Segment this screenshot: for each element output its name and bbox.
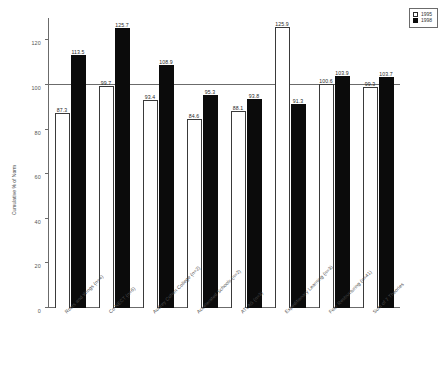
bar-1998[interactable]: 108.9 (159, 65, 174, 308)
bar-1998[interactable]: 103.9 (335, 76, 350, 308)
plot-area: 020406080100120 87.3113.599.7125.793.410… (48, 18, 400, 308)
bar-value-label: 103.9 (335, 70, 348, 76)
bar-1998[interactable]: 95.3 (203, 95, 218, 308)
bar-value-label: 125.9 (275, 21, 288, 27)
legend-label: 1998 (421, 18, 432, 23)
bar-value-label: 88.1 (233, 105, 244, 111)
bar-1995[interactable]: 87.3 (55, 113, 70, 308)
bar-value-label: 95.3 (205, 89, 216, 95)
bar-1998[interactable]: 103.7 (379, 77, 394, 308)
bar-value-label: 91.3 (293, 98, 304, 104)
y-axis-title: Cumulative % of Norm (12, 165, 17, 215)
bar-group: 87.3113.5 (55, 18, 86, 308)
white-square-swatch-icon (413, 12, 418, 17)
bar-value-label: 93.4 (145, 94, 156, 100)
bar-1995[interactable]: 125.9 (275, 27, 290, 308)
bar-group: 93.4108.9 (143, 18, 174, 308)
bar-group: 99.7125.7 (99, 18, 130, 308)
bar-value-label: 108.9 (159, 59, 172, 65)
bar-1998[interactable]: 91.3 (291, 104, 306, 308)
bar-1995[interactable]: 93.4 (143, 100, 158, 308)
legend-item-1998[interactable]: 1998 (413, 18, 432, 23)
bar-value-label: 87.3 (57, 107, 68, 113)
y-axis-line (48, 18, 49, 308)
bar-group: 84.695.3 (187, 18, 218, 308)
black-square-swatch-icon (413, 18, 418, 23)
bar-value-label: 103.7 (379, 71, 392, 77)
bar-value-label: 100.6 (319, 78, 332, 84)
bar-chart: Cumulative % of Norm 020406080100120 87.… (0, 0, 446, 380)
bar-value-label: 99.3 (365, 81, 376, 87)
bar-value-label: 84.6 (189, 113, 200, 119)
bar-1998[interactable]: 113.5 (71, 55, 86, 308)
bar-group: 88.193.8 (231, 18, 262, 308)
bar-1998[interactable]: 93.8 (247, 99, 262, 308)
bar-value-label: 99.7 (101, 80, 112, 86)
bar-1998[interactable]: 125.7 (115, 28, 130, 308)
bar-group: 99.3103.7 (363, 18, 394, 308)
bar-group: 100.6103.9 (319, 18, 350, 308)
bar-group: 125.991.3 (275, 18, 306, 308)
bar-value-label: 93.8 (249, 93, 260, 99)
bar-value-label: 125.7 (115, 22, 128, 28)
y-tick-mark (45, 307, 49, 308)
legend: 1995 1998 (409, 8, 438, 28)
bar-value-label: 113.5 (71, 49, 84, 55)
